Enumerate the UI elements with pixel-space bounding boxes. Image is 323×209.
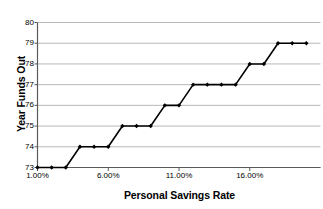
x-tick-label: 11.00% [156, 171, 202, 180]
x-axis-title: Personal Savings Rate [36, 189, 323, 201]
x-axis-tick-labels: 1.00%6.00%11.00%16.00% [0, 0, 323, 209]
savings-rate-chart: Year Funds Out 7374757677787980 1.00%6.0… [0, 0, 323, 209]
x-tick-label: 16.00% [227, 171, 273, 180]
x-tick-label: 1.00% [15, 171, 61, 180]
x-tick-label: 6.00% [85, 171, 131, 180]
